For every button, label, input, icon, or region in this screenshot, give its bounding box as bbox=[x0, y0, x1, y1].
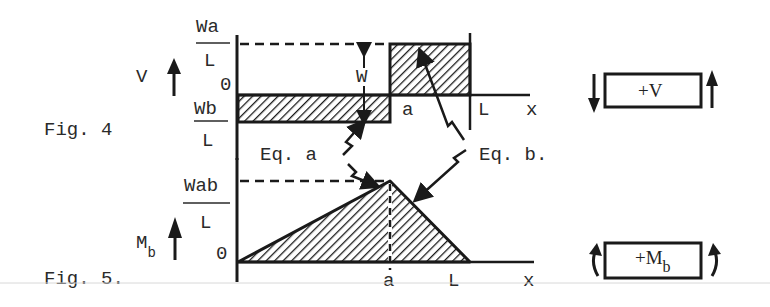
down-arrow-icon bbox=[588, 74, 600, 113]
shear-positive-region bbox=[390, 44, 470, 95]
moment-x-label-a: a bbox=[383, 270, 394, 292]
counterclockwise-arrow-icon bbox=[589, 243, 602, 276]
eq-a-label: Eq. a bbox=[260, 144, 317, 166]
shear-negative-region bbox=[238, 95, 390, 122]
moment-x-label-x: x bbox=[523, 270, 534, 292]
figure-caption-5: Fig. 5. bbox=[44, 268, 124, 290]
moment-x-label-L: L bbox=[448, 270, 459, 292]
moment-sign-convention: +Mb bbox=[589, 243, 721, 278]
up-arrow-icon bbox=[168, 217, 182, 260]
shear-top-denominator: L bbox=[204, 50, 215, 72]
moment-diagram: Wab L 0 Mb a L x Fig. 5. bbox=[44, 158, 534, 292]
up-arrow-icon bbox=[167, 58, 181, 96]
shear-bottom-numerator: Wb bbox=[194, 98, 217, 120]
moment-axis-label: Mb bbox=[136, 232, 156, 261]
eq-b-label: Eq. b. bbox=[479, 144, 547, 166]
shear-bottom-denominator: L bbox=[202, 130, 213, 152]
jump-label: W bbox=[356, 66, 368, 88]
figure-caption-4: Fig. 4 bbox=[44, 119, 112, 141]
shear-zero-label: 0 bbox=[220, 74, 231, 96]
shear-sign-label: +V bbox=[638, 80, 663, 101]
moment-region bbox=[238, 181, 470, 262]
up-arrow-icon bbox=[706, 70, 718, 108]
moment-peak-denominator: L bbox=[200, 212, 211, 234]
shear-top-numerator: Wa bbox=[196, 16, 219, 38]
moment-zero-label: 0 bbox=[216, 243, 227, 265]
shear-moment-diagram: W Wa L 0 Wb L V a L x Fig. 4 +V bbox=[0, 0, 770, 307]
moment-peak-numerator: Wab bbox=[184, 175, 218, 197]
shear-x-label-L: L bbox=[478, 99, 489, 121]
shear-sign-convention: +V bbox=[588, 70, 718, 113]
shear-axis-label: V bbox=[136, 66, 148, 88]
clockwise-arrow-icon bbox=[708, 243, 721, 276]
shear-x-label-a: a bbox=[402, 99, 413, 121]
shear-x-label-x: x bbox=[526, 99, 537, 121]
